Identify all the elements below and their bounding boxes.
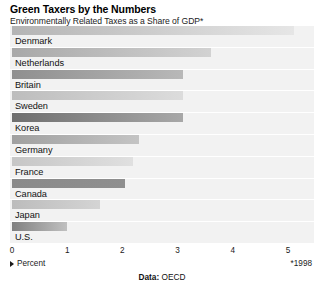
bar-label: Netherlands	[15, 57, 64, 70]
bar	[12, 135, 139, 144]
bar	[12, 48, 211, 57]
bar-row: Korea	[10, 113, 314, 135]
bar-label: Denmark	[15, 35, 52, 48]
bar-label: France	[15, 166, 43, 179]
bar	[12, 179, 125, 188]
axis-caption-label: Percent	[17, 259, 45, 269]
bar-label: Japan	[15, 209, 40, 222]
x-axis-tick-label: 1	[65, 246, 70, 256]
bar-row: Germany	[10, 135, 314, 157]
plot-area: DenmarkNetherlandsBritainSwedenKoreaGerm…	[10, 26, 314, 244]
chart-header: Green Taxers by the Numbers Environmenta…	[10, 3, 314, 27]
bar-row: Japan	[10, 200, 314, 222]
bar-label: Britain	[15, 79, 41, 92]
bar-label: Sweden	[15, 100, 48, 113]
footnote: *1998	[291, 259, 312, 269]
bar-label: Germany	[15, 144, 52, 157]
source-name: OECD	[162, 272, 186, 282]
bar-row: Canada	[10, 179, 314, 201]
bar	[12, 70, 183, 79]
chart-title: Green Taxers by the Numbers	[10, 3, 314, 15]
source-note: Data: OECD	[0, 272, 324, 282]
bar-label: Korea	[15, 122, 39, 135]
bar-label: Canada	[15, 188, 47, 201]
chart-card: Green Taxers by the Numbers Environmenta…	[0, 0, 324, 288]
bar	[12, 200, 100, 209]
row-divider	[10, 243, 314, 244]
x-axis-tick-label: 4	[231, 246, 236, 256]
bar	[12, 26, 294, 35]
bar	[12, 157, 133, 166]
bar-row: France	[10, 157, 314, 179]
bar-label: U.S.	[15, 231, 33, 244]
bar	[12, 91, 183, 100]
x-axis-tick-label: 0	[10, 246, 15, 256]
x-axis-tick-label: 5	[286, 246, 291, 256]
bar	[12, 113, 183, 122]
bar	[12, 222, 67, 231]
bar-row: Netherlands	[10, 48, 314, 70]
bar-row: U.S.	[10, 222, 314, 244]
x-axis: 012345	[10, 246, 314, 258]
caret-right-icon	[10, 261, 14, 267]
x-axis-tick-label: 2	[120, 246, 125, 256]
bar-row: Denmark	[10, 26, 314, 48]
bar-row: Britain	[10, 70, 314, 92]
axis-caption: Percent	[10, 259, 45, 269]
source-prefix: Data:	[138, 272, 159, 282]
x-axis-tick-label: 3	[175, 246, 180, 256]
bar-row: Sweden	[10, 91, 314, 113]
